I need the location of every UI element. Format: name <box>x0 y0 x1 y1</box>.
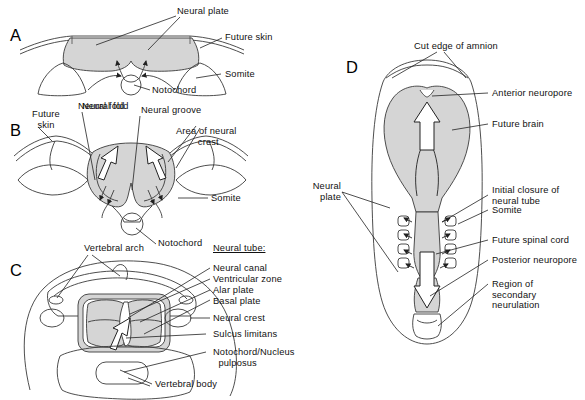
label-d-region-of-secondary-neurulation: Region of secondary neurulation <box>492 279 540 311</box>
label-b-neural-groove: Neural groove <box>141 105 201 116</box>
label-a-future-skin: Future skin <box>225 32 273 43</box>
label-a-neural-plate: Neural plate <box>177 6 229 17</box>
label-d-future-spinal-cord: Future spinal cord <box>492 235 569 246</box>
label-d-cut-edge-of-amnion: Cut edge of amnion <box>414 41 498 52</box>
label-b-somite: Somite <box>211 193 241 204</box>
label-a-somite: Somite <box>225 69 255 80</box>
label-c-sulcus-limitans: Sulcus limitans <box>213 329 277 340</box>
label-d-neural-plate: Neural plate <box>295 181 341 202</box>
label-c-vertebral-body: Vertebral body <box>155 379 217 390</box>
label-b-future-skin: Future skin <box>24 109 68 130</box>
label-d-somite: Somite <box>492 205 522 216</box>
panel-letter-b: B <box>10 121 21 140</box>
panel-a-artwork <box>20 36 244 96</box>
label-b-area-of-neural-crest: Area of neural crest <box>176 126 237 147</box>
label-c-notochord-nucleus-pulposus: Notochord/Nucleus pulposus <box>213 347 295 368</box>
label-d-posterior-neuropore: Posterior neuropore <box>492 255 577 266</box>
label-c-neural-crest: Neural crest <box>213 313 265 324</box>
panel-letter-d: D <box>346 58 358 77</box>
label-c-alar-plate: Alar plate <box>213 285 254 296</box>
label-b-notochord: Notochord <box>158 238 202 249</box>
label-c-basal-plate: Basal plate <box>213 296 261 307</box>
label-d-future-brain: Future brain <box>492 119 544 130</box>
label-a-notochord: Notochord <box>152 85 196 96</box>
panel-letter-a: A <box>10 26 21 45</box>
panel-b-artwork <box>14 136 248 235</box>
label-b-neural-fold: Neural fold <box>82 101 129 112</box>
panel-d-artwork <box>372 60 482 344</box>
label-d-anterior-neuropore: Anterior neuropore <box>492 88 572 99</box>
label-c-vertebral-arch: Vertebral arch <box>84 243 144 254</box>
label-c-neural-tube-header: Neural tube: <box>213 243 265 254</box>
label-d-initial-closure: Initial closure of neural tube <box>492 185 559 206</box>
label-c-ventricular-zone: Ventricular zone <box>213 274 282 285</box>
panel-letter-c: C <box>10 261 22 280</box>
figure-canvas: A Neural plate Future skin Somite Notoch… <box>0 0 585 400</box>
label-c-neural-canal: Neural canal <box>213 263 267 274</box>
